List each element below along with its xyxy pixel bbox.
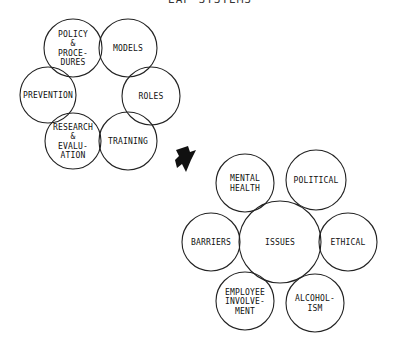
node-alcoholism: ALCOHOL-ISM <box>286 274 344 332</box>
node-label: MENT <box>235 307 255 316</box>
node-policy: POLICY&PROCE-DURES <box>44 19 102 77</box>
node-roles: ROLES <box>122 67 180 125</box>
node-label: INVOLVE- <box>225 297 265 306</box>
node-label: POLICY <box>58 30 88 39</box>
node-barriers: BARRIERS <box>182 213 240 271</box>
node-label: MODELS <box>113 44 143 53</box>
node-label: PREVENTION <box>23 91 73 100</box>
node-label: RESEARCH <box>53 123 93 132</box>
node-mental-health: MENTALHEALTH <box>216 154 274 212</box>
node-label: MENTAL <box>230 174 260 183</box>
node-employee-involvement: EMPLOYEEINVOLVE-MENT <box>216 272 274 330</box>
node-label: ISM <box>307 304 322 313</box>
node-label: ATION <box>60 151 85 160</box>
node-label: EMPLOYEE <box>225 288 265 297</box>
flow-arrow-icon <box>175 146 196 172</box>
diagram-canvas: POLICY&PROCE-DURESMODELSROLESTRAININGRES… <box>0 0 394 345</box>
cluster-eap-issues: ISSUESMENTALHEALTHPOLITICALBARRIERSETHIC… <box>182 150 377 332</box>
node-training: TRAINING <box>99 112 157 170</box>
node-label: EVALU- <box>58 142 88 151</box>
node-research: RESEARCH&EVALU-ATION <box>45 113 101 169</box>
node-label: TRAINING <box>108 137 148 146</box>
node-label: BARRIERS <box>191 238 231 247</box>
node-label: ROLES <box>138 92 163 101</box>
node-label: & <box>70 39 75 48</box>
node-label: ALCOHOL- <box>295 294 335 303</box>
node-political: POLITICAL <box>286 150 346 210</box>
node-models: MODELS <box>99 19 157 77</box>
node-ethical: ETHICAL <box>319 213 377 271</box>
node-label: DURES <box>60 58 85 67</box>
node-label: & <box>70 132 75 141</box>
node-prevention: PREVENTION <box>20 67 76 123</box>
node-issues: ISSUES <box>239 201 321 283</box>
node-label: ETHICAL <box>330 238 365 247</box>
node-label: PROCE- <box>58 49 88 58</box>
cluster-eap-system-components: POLICY&PROCE-DURESMODELSROLESTRAININGRES… <box>20 19 180 170</box>
node-label: ISSUES <box>265 238 295 247</box>
node-label: POLITICAL <box>293 176 338 185</box>
node-label: HEALTH <box>230 184 260 193</box>
